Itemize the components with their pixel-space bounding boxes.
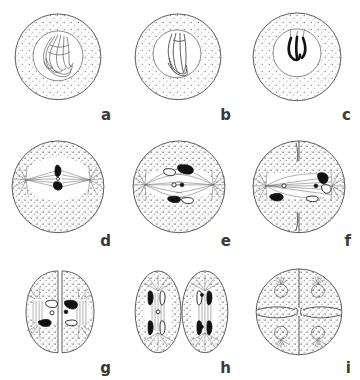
chromosome (207, 321, 212, 335)
chromosome (148, 321, 153, 335)
chromosome (207, 291, 212, 305)
mitosis-figure-plate: a (0, 0, 360, 380)
panel-label-e: e (221, 234, 231, 249)
panel-i: i (240, 253, 360, 380)
centriole-dark (64, 310, 68, 314)
centromere (57, 177, 60, 180)
chromosome (55, 165, 61, 177)
panel-f: f (240, 127, 360, 254)
chromosome (182, 197, 194, 203)
centriole-dark (200, 326, 203, 329)
chromosome (197, 291, 202, 305)
chromosome (322, 184, 332, 193)
panel-f-drawing (240, 127, 360, 254)
panel-label-f: f (344, 234, 351, 249)
chromosome (46, 301, 58, 308)
panel-label-b: b (220, 108, 231, 123)
chromosome (66, 320, 78, 326)
centriole-open (50, 311, 54, 315)
panel-a: a (0, 0, 120, 127)
panel-d: d (0, 127, 120, 254)
panel-grid: a (0, 0, 360, 380)
panel-label-g: g (100, 361, 111, 376)
panel-label-c: c (342, 108, 351, 123)
panel-i-drawing (240, 253, 360, 380)
chromosome (148, 291, 153, 305)
centriole-open (282, 184, 286, 188)
chromosome (160, 321, 165, 335)
panel-e: e (120, 127, 240, 254)
chromosome (306, 196, 318, 202)
panel-label-i: i (346, 361, 351, 376)
chromosome (168, 196, 181, 202)
panel-h: h (120, 253, 240, 380)
panel-label-h: h (220, 361, 231, 376)
panel-c: c (240, 0, 360, 127)
panel-label-d: d (100, 234, 111, 249)
centriole-open (156, 310, 160, 314)
chromosome (53, 181, 62, 189)
centriole-dark (314, 184, 318, 188)
centriole-dark (200, 294, 203, 297)
panel-label-a: a (101, 108, 111, 123)
centriole-dark (180, 183, 184, 187)
centriole-open (172, 182, 176, 186)
panel-g: g (0, 253, 120, 380)
panel-b: b (120, 0, 240, 127)
chromosome (164, 168, 176, 175)
chromosome (160, 291, 165, 305)
